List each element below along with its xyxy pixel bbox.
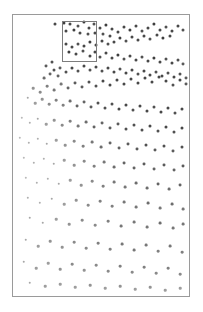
plot-frame [12,14,190,297]
highlight-rectangle[interactable] [62,21,97,62]
scatter-plot-screenshot [0,0,203,312]
